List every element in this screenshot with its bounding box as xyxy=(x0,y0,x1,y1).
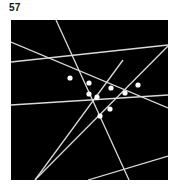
arrangement-line xyxy=(11,42,168,108)
intersection-node xyxy=(94,94,99,99)
line-arrangement-svg xyxy=(11,20,168,180)
arrangement-line xyxy=(35,60,123,180)
lines-group xyxy=(11,20,168,180)
figure-label: 57 xyxy=(9,2,21,14)
figure-root: 57 xyxy=(0,0,180,187)
arrangement-line xyxy=(35,46,168,180)
intersection-node xyxy=(135,82,140,87)
intersection-node xyxy=(97,113,102,118)
intersection-node xyxy=(108,85,113,90)
intersection-node xyxy=(122,90,127,95)
intersection-node xyxy=(86,91,91,96)
arrangement-line xyxy=(11,45,168,62)
intersection-node xyxy=(86,80,91,85)
intersection-node xyxy=(67,75,72,80)
line-arrangement-panel xyxy=(11,20,168,180)
intersection-node xyxy=(107,106,112,111)
